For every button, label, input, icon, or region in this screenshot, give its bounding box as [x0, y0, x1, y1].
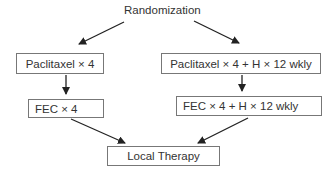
node-label: Paclitaxel × 4 — [26, 58, 95, 70]
node-label: Paclitaxel × 4 + H × 12 wkly — [170, 58, 312, 70]
node-fec-arm1: FEC × 4 — [28, 99, 104, 118]
node-label: FEC × 4 + H × 12 wkly — [183, 100, 298, 112]
node-paclitaxel-arm1: Paclitaxel × 4 — [16, 53, 104, 74]
arrow-arm2-to-final — [198, 118, 248, 143]
node-paclitaxel-h-arm2: Paclitaxel × 4 + H × 12 wkly — [161, 53, 321, 74]
node-label: FEC × 4 — [35, 103, 78, 115]
arrow-root-to-arm2 — [194, 21, 239, 43]
arrow-arm1-to-final — [71, 119, 125, 143]
node-fec-h-arm2: FEC × 4 + H × 12 wkly — [176, 96, 322, 116]
node-local-therapy: Local Therapy — [107, 146, 220, 166]
arrow-root-to-arm1 — [79, 22, 124, 44]
randomization-label: Randomization — [124, 4, 201, 16]
node-label: Local Therapy — [127, 150, 200, 162]
